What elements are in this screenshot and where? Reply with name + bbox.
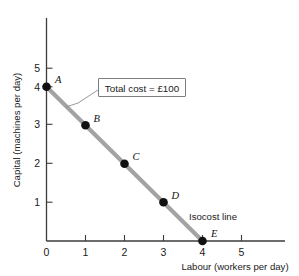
- chart-plot-area: 5 4 3 2 1 0 1 2 3 4 5 Capital (machines …: [0, 0, 299, 276]
- x-axis-title: Labour (workers per day): [181, 261, 288, 272]
- x-tick-label-0: 0: [44, 246, 50, 258]
- x-tick-label-2: 2: [122, 246, 128, 258]
- callout-leader-line: [66, 90, 98, 107]
- y-tick-label-5: 5: [34, 62, 40, 74]
- data-point-d: [159, 198, 168, 207]
- x-tick-label-3: 3: [161, 246, 167, 258]
- x-axis-ticks: [86, 235, 242, 241]
- x-tick-label-5: 5: [239, 246, 245, 258]
- data-point-e: [198, 237, 207, 246]
- x-tick-label-1: 1: [83, 246, 89, 258]
- data-point-b: [81, 121, 90, 130]
- x-tick-label-4: 4: [200, 246, 206, 258]
- total-cost-callout-label: Total cost = £100: [105, 83, 180, 94]
- data-point-label-b: B: [94, 113, 101, 124]
- data-point-c: [120, 160, 129, 169]
- isocost-line-label: Isocost line: [189, 211, 237, 222]
- y-axis-title: Capital (machines per day): [11, 73, 22, 188]
- y-tick-label-4: 4: [34, 81, 40, 93]
- data-point-label-c: C: [133, 151, 141, 162]
- data-point-label-a: A: [54, 74, 62, 85]
- y-tick-label-1: 1: [34, 196, 40, 208]
- isocost-chart-figure: 5 4 3 2 1 0 1 2 3 4 5 Capital (machines …: [0, 0, 299, 276]
- data-point-a: [42, 83, 51, 92]
- y-tick-label-3: 3: [34, 118, 40, 130]
- data-point-label-d: D: [171, 190, 180, 201]
- data-point-label-e: E: [210, 228, 218, 239]
- y-tick-label-2: 2: [34, 157, 40, 169]
